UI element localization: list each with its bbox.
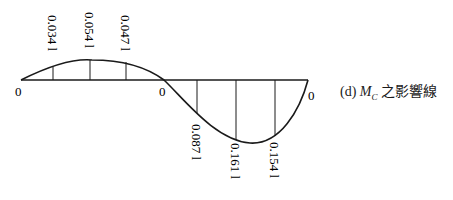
zero-label-right: 0 — [308, 88, 315, 103]
zero-label-left: 0 — [15, 84, 22, 99]
caption-subscript: C — [372, 92, 378, 102]
ordinate-label: 0.047 l — [118, 15, 133, 52]
ordinate-label: 0.154 l — [267, 142, 282, 179]
caption-prefix: (d) — [340, 84, 356, 99]
ordinate-label: 0.054 l — [82, 12, 97, 49]
influence-curve — [21, 60, 308, 143]
caption-symbol: M — [360, 84, 372, 99]
ordinate-label: 0.034 l — [45, 15, 60, 52]
ordinate-label: 0.161 l — [228, 143, 243, 180]
ordinate-label: 0.087 l — [189, 124, 204, 161]
caption-suffix: 之影響線 — [381, 84, 437, 99]
zero-label-mid: 0 — [159, 84, 166, 99]
diagram-caption: (d) MC 之影響線 — [340, 80, 437, 102]
